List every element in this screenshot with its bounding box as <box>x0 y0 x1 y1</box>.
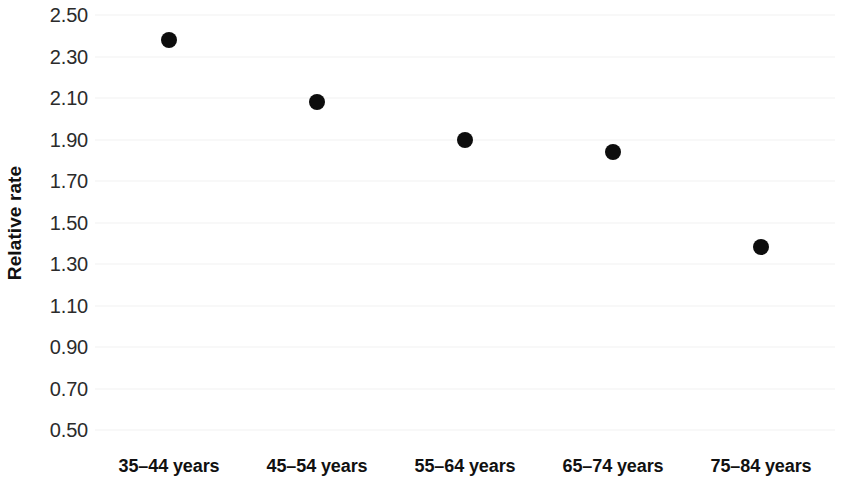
y-axis-tick-label: 1.50 <box>50 211 88 234</box>
data-point <box>753 239 769 255</box>
y-axis-tick-labels: 2.502.302.101.901.701.501.301.100.900.70… <box>30 0 92 445</box>
y-axis-tick-label: 0.90 <box>50 336 88 359</box>
y-axis-tick-label: 2.10 <box>50 87 88 110</box>
y-axis-tick-label: 0.50 <box>50 419 88 442</box>
gridline <box>95 181 835 182</box>
gridline <box>95 347 835 348</box>
gridline <box>95 430 835 431</box>
data-point <box>161 32 177 48</box>
scatter-chart: Relative rate 2.502.302.101.901.701.501.… <box>0 0 841 487</box>
y-axis-title: Relative rate <box>0 0 30 445</box>
gridline <box>95 15 835 16</box>
y-axis-tick-label: 1.70 <box>50 170 88 193</box>
y-axis-tick-label: 1.90 <box>50 128 88 151</box>
data-point <box>457 132 473 148</box>
plot-area <box>95 0 835 445</box>
y-axis-tick-label: 2.30 <box>50 45 88 68</box>
gridline <box>95 388 835 389</box>
x-axis-tick-label: 65–74 years <box>562 456 663 477</box>
x-axis-tick-label: 45–54 years <box>266 456 367 477</box>
x-axis-tick-label: 55–64 years <box>414 456 515 477</box>
gridline <box>95 56 835 57</box>
gridline <box>95 305 835 306</box>
gridline <box>95 222 835 223</box>
x-axis-tick-label: 75–84 years <box>710 456 811 477</box>
y-axis-tick-label: 2.50 <box>50 4 88 27</box>
y-axis-tick-label: 1.10 <box>50 294 88 317</box>
data-point <box>309 94 325 110</box>
y-axis-tick-label: 0.70 <box>50 377 88 400</box>
gridline <box>95 98 835 99</box>
gridline <box>95 264 835 265</box>
x-axis-tick-labels: 35–44 years45–54 years55–64 years65–74 y… <box>95 445 835 487</box>
data-point <box>605 144 621 160</box>
y-axis-title-label: Relative rate <box>4 165 26 279</box>
x-axis-tick-label: 35–44 years <box>118 456 219 477</box>
y-axis-tick-label: 1.30 <box>50 253 88 276</box>
